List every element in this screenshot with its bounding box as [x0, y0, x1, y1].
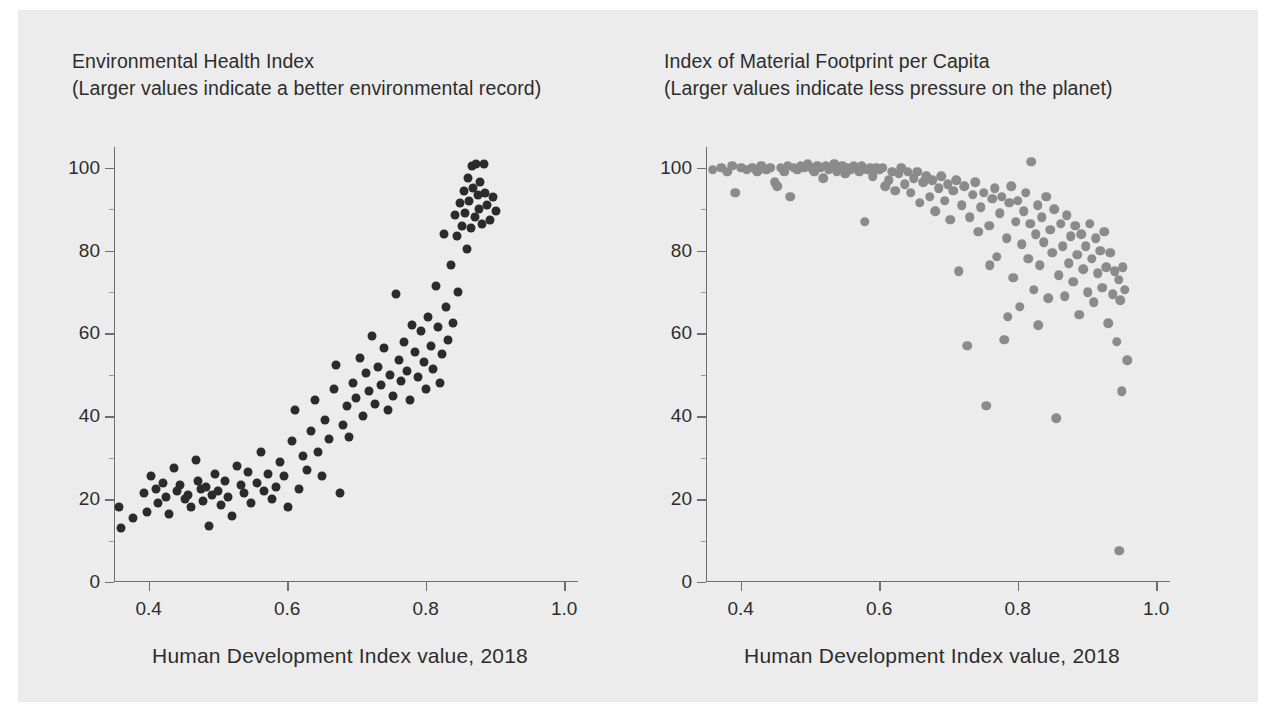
scatter-point [191, 455, 200, 464]
scatter-point [1023, 254, 1033, 264]
y-tick-label-left: 80 [79, 240, 100, 262]
scatter-point [1115, 546, 1125, 556]
scatter-point [263, 470, 272, 479]
scatter-point [204, 522, 213, 531]
chart-title-right-line1: Index of Material Footprint per Capita [664, 50, 990, 72]
scatter-point [1031, 229, 1041, 239]
chart-title-left-line1: Environmental Health Index [72, 50, 314, 72]
x-tick-label-left: 1.0 [551, 598, 577, 620]
scatter-point [1085, 219, 1095, 229]
scatter-point [456, 198, 465, 207]
scatter-point [1066, 231, 1076, 241]
y-tick-label-right: 100 [660, 157, 692, 179]
chart-title-left: Environmental Health Index (Larger value… [72, 48, 632, 102]
scatter-point [1045, 225, 1055, 235]
scatter-point [1104, 318, 1114, 328]
scatter-point [436, 379, 445, 388]
y-tick-left [105, 499, 114, 500]
x-tick-label-left: 0.8 [412, 598, 438, 620]
scatter-point [380, 343, 389, 352]
scatter-point [314, 447, 323, 456]
scatter-point [299, 451, 308, 460]
y-tick-left [105, 251, 114, 252]
x-tick-right [1156, 582, 1157, 591]
scatter-point [1007, 182, 1017, 192]
x-tick-right [1018, 582, 1019, 591]
scatter-point [976, 202, 986, 212]
scatter-point [1011, 217, 1021, 227]
scatter-point [968, 190, 978, 200]
scatter-point [1077, 229, 1087, 239]
y-tick-right [697, 499, 706, 500]
y-tick-label-left: 40 [79, 405, 100, 427]
y-tick-label-left: 100 [68, 157, 100, 179]
scatter-point [444, 335, 453, 344]
scatter-point [411, 348, 420, 357]
scatter-point [479, 159, 488, 168]
scatter-point [405, 395, 414, 404]
scatter-point [925, 192, 935, 202]
scatter-point [1048, 248, 1058, 258]
y-tick-label-right: 60 [671, 322, 692, 344]
scatter-point [224, 493, 233, 502]
scatter-point [1114, 275, 1124, 285]
y-tick-right [697, 582, 706, 583]
scatter-point [1068, 277, 1078, 287]
scatter-point [973, 227, 983, 237]
scatter-point [1122, 356, 1132, 366]
x-tick-right [741, 582, 742, 591]
scatter-point [1025, 219, 1035, 229]
scatter-point [345, 433, 354, 442]
scatter-point [151, 484, 160, 493]
scatter-point [325, 435, 334, 444]
scatter-point [154, 499, 163, 508]
scatter-point [1041, 192, 1051, 202]
scatter-point [1064, 258, 1074, 268]
scatter-point [1056, 219, 1066, 229]
scatter-point [971, 177, 981, 187]
scatter-point [199, 497, 208, 506]
scatter-point [227, 511, 236, 520]
x-tick-label-left: 0.6 [274, 598, 300, 620]
scatter-point [348, 379, 357, 388]
scatter-point [424, 312, 433, 321]
scatter-point [1099, 227, 1109, 237]
y-tick-left [105, 582, 114, 583]
scatter-point [332, 360, 341, 369]
scatter-point [247, 499, 256, 508]
scatter-point [1118, 262, 1128, 272]
scatter-point [1017, 240, 1027, 250]
scatter-point [129, 513, 138, 522]
scatter-point [1043, 293, 1053, 303]
x-tick-left [426, 582, 427, 591]
scatter-point [995, 209, 1005, 219]
x-tick-label-right: 0.6 [866, 598, 892, 620]
x-tick-left [149, 582, 150, 591]
scatter-point [461, 209, 470, 218]
scatter-point [202, 482, 211, 491]
scatter-point [948, 186, 958, 196]
scatter-point [1081, 242, 1091, 252]
y-minor-tick-left [109, 458, 114, 459]
scatter-point [454, 288, 463, 297]
scatter-point [730, 188, 740, 198]
scatter-point [221, 476, 230, 485]
scatter-point [1089, 298, 1099, 308]
scatter-point [1054, 271, 1064, 281]
scatter-point [283, 503, 292, 512]
scatter-point [335, 488, 344, 497]
scatter-point [786, 192, 796, 202]
scatter-point [159, 478, 168, 487]
y-tick-left [105, 333, 114, 334]
scatter-point [982, 401, 992, 411]
scatter-point [352, 393, 361, 402]
scatter-point [1035, 260, 1045, 270]
scatter-point [184, 491, 193, 500]
y-minor-tick-right [701, 209, 706, 210]
scatter-point [1027, 157, 1037, 167]
scatter-point [371, 399, 380, 408]
scatter-point [462, 244, 471, 253]
scatter-point [272, 482, 281, 491]
scatter-point [1009, 273, 1019, 283]
y-tick-right [697, 251, 706, 252]
